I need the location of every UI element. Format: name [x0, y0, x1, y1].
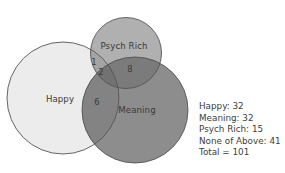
- legend-total: Total = 101: [199, 147, 281, 159]
- legend: Happy: 32 Meaning: 32 Psych Rich: 15 Non…: [199, 101, 281, 159]
- region-all-three-value: 2: [98, 67, 103, 77]
- region-happy-meaning-value: 6: [94, 97, 99, 107]
- legend-meaning: Meaning: 32: [199, 113, 281, 125]
- happy-label: Happy: [46, 94, 74, 104]
- legend-happy: Happy: 32: [199, 101, 281, 113]
- legend-none-of-above: None of Above: 41: [199, 136, 281, 148]
- legend-psych-rich: Psych Rich: 15: [199, 124, 281, 136]
- psych-rich-label: Psych Rich: [100, 41, 147, 51]
- region-psych-meaning-value: 8: [127, 64, 132, 74]
- region-happy-psych-value: 1: [91, 57, 96, 67]
- meaning-label: Meaning: [118, 105, 155, 115]
- venn-diagram: Happy Meaning Psych Rich 1 2 8 6 Happy: …: [0, 0, 285, 173]
